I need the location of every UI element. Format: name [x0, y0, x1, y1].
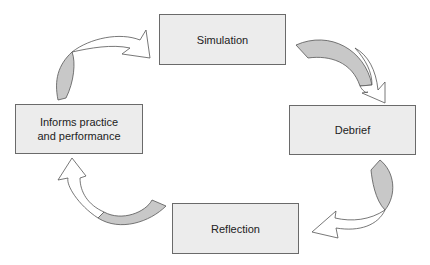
arrow-simulation-to-debrief [296, 40, 385, 103]
node-debrief: Debrief [289, 105, 416, 155]
node-label: Simulation [197, 33, 248, 47]
node-reflection: Reflection [172, 203, 299, 254]
arrow-debrief-to-reflection [312, 160, 393, 238]
arrow-reflection-to-informs [58, 158, 166, 225]
node-label-line2: and performance [37, 129, 120, 143]
node-label: Reflection [211, 222, 260, 236]
arrow-informs-to-simulation [57, 30, 150, 100]
node-informs-practice: Informs practice and performance [15, 104, 143, 154]
node-label: Debrief [335, 123, 370, 137]
node-simulation: Simulation [159, 14, 286, 65]
node-label-line1: Informs practice [40, 115, 118, 129]
